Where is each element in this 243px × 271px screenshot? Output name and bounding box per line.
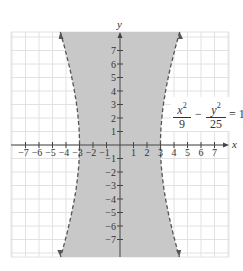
minus-sign: − [195,107,202,122]
y-tick-label: 7 [111,45,116,56]
x-tick-label: 6 [199,147,204,158]
hyperbola-graph: −7−6−5−4−3−2−112345677654321−1−2−3−4−5−6… [0,0,243,271]
x-tick-label: −2 [86,147,97,158]
x-tick-label: 5 [185,147,190,158]
y-tick-label: −7 [105,234,116,245]
y-tick-label: −2 [105,167,116,178]
y-tick-label: 5 [111,72,116,83]
x-tick-label: 2 [145,147,150,158]
x-tick-label: 1 [131,147,136,158]
x-tick-label: 4 [172,147,177,158]
y-tick-label: 2 [111,113,116,124]
term2-exponent: 2 [217,101,221,110]
x-tick-label: −3 [72,147,83,158]
y-tick-label: −4 [105,194,116,205]
x-axis-label: x [231,138,237,150]
y-tick-label: −1 [105,153,116,164]
x-tick-label: −6 [32,147,43,158]
term2-denominator: 25 [206,118,226,131]
y-tick-label: −5 [105,207,116,218]
y-tick-label: −6 [105,221,116,232]
y-axis-label: y [116,18,122,30]
x-tick-label: −7 [18,147,29,158]
y-tick-label: 6 [111,59,116,70]
equation-rhs: = 1 [229,107,243,122]
x-tick-label: −5 [45,147,56,158]
term1-denominator: 9 [173,118,191,131]
term2-fraction: y2 25 [206,99,226,131]
y-tick-label: 4 [111,86,116,97]
x-tick-label: −4 [59,147,70,158]
x-tick-label: 3 [158,147,163,158]
y-tick-label: −3 [105,180,116,191]
y-tick-label: 3 [111,99,116,110]
x-tick-label: 7 [212,147,217,158]
term1-fraction: x2 9 [173,99,191,131]
y-tick-label: 1 [111,126,116,137]
term1-exponent: 2 [183,101,187,110]
equation-label: x2 9 − y2 25 = 1 [171,97,241,131]
